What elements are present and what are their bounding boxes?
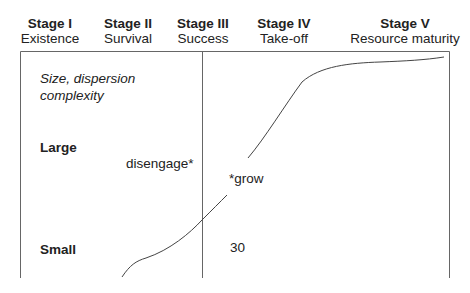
axis-label-line2: complexity [40, 88, 104, 103]
number-label: 30 [230, 240, 245, 255]
grow-label: *grow [229, 171, 264, 186]
growth-curve-upper [248, 57, 444, 158]
axis-label: Size, dispersion complexity [40, 70, 135, 104]
growth-curve-lower [122, 195, 227, 277]
small-label: Small [40, 242, 76, 257]
large-label: Large [40, 140, 77, 155]
axis-label-line1: Size, dispersion [40, 71, 135, 86]
disengage-label: disengage* [126, 156, 194, 171]
